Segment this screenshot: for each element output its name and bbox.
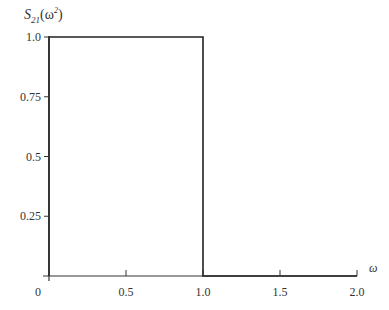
x-tick-label: 1.5 (273, 285, 288, 299)
y-tick-label: 0.25 (20, 209, 41, 223)
y-tick-label: 1.0 (26, 30, 41, 44)
series-line (49, 37, 357, 276)
y-tick-label: 0.75 (20, 90, 41, 104)
x-tick-label: 0 (35, 285, 41, 299)
x-axis-label: ω (369, 261, 377, 275)
data-series (49, 37, 357, 276)
y-tick-label: 0.5 (26, 150, 41, 164)
x-tick-label: 0.5 (119, 285, 134, 299)
x-tick-label: 1.0 (196, 285, 211, 299)
y-axis-label: S21(ω2) (24, 6, 63, 25)
chart: 00.51.01.52.00.250.50.751.0 S21(ω2) ω (0, 0, 389, 310)
ticks: 00.51.01.52.00.250.50.751.0 (20, 30, 365, 299)
x-tick-label: 2.0 (350, 285, 365, 299)
axes (43, 36, 357, 281)
